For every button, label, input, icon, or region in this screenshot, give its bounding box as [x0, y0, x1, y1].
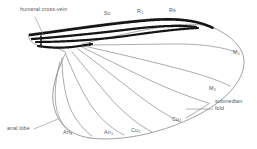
m1-vein: [84, 46, 230, 86]
label-cu2-sub: 2: [138, 129, 140, 134]
anal-lobe-leader-line: [34, 119, 58, 129]
label-cu1-sub: 1: [179, 118, 181, 123]
label-m1: M1: [233, 50, 240, 56]
label-m2: M2: [209, 86, 216, 92]
label-m1-sub: 1: [238, 51, 240, 56]
label-an1-base: An: [104, 129, 111, 135]
label-rs: Rs: [169, 8, 176, 14]
wing-venation-figure: humeral cross-vein Sc R1 Rs M1 M2 submed…: [0, 0, 257, 149]
label-an2: An2: [63, 130, 72, 136]
cu1-vein: [72, 52, 152, 132]
r-posterior-branch-vein: [84, 44, 236, 52]
an2-vein: [55, 62, 72, 134]
label-an1-sub: 1: [111, 131, 113, 136]
label-submedian-line2: fold: [215, 105, 224, 111]
label-r1-sub: 1: [141, 10, 143, 15]
label-an2-sub: 2: [70, 131, 72, 136]
label-r1: R1: [137, 9, 143, 15]
heavy-anterior-veins-group: [30, 19, 213, 47]
m2-vein: [82, 47, 208, 103]
label-an1: An1: [104, 130, 113, 136]
anal-lobe-margin: [53, 66, 90, 138]
label-m2-base: M: [209, 85, 214, 91]
cu2-vein: [66, 55, 124, 135]
leader-lines-group: [34, 17, 213, 129]
an1-vein: [62, 58, 92, 136]
label-submedian-line1: submedian: [215, 98, 242, 104]
label-cu1: Cu1: [172, 117, 181, 123]
label-cu2: Cu2: [131, 128, 140, 134]
humeral-leader-line: [35, 17, 43, 34]
label-sc: Sc: [104, 11, 111, 17]
label-an2-base: An: [63, 129, 70, 135]
wing-diagram-svg: [0, 0, 257, 149]
label-humeral-cross-vein: humeral cross-vein: [20, 7, 67, 13]
label-m2-sub: 2: [214, 87, 216, 92]
label-m1-base: M: [233, 49, 238, 55]
medial-crossvein: [78, 49, 180, 122]
label-anal-lobe: anal lobe: [7, 126, 30, 132]
label-submedian-fold: submedianfold: [215, 98, 242, 113]
